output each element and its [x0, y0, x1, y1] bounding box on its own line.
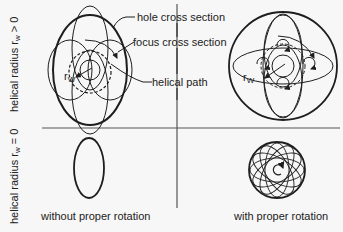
row-label-top-text: helical radius r — [8, 41, 20, 112]
row-label-bottom: helical radius rw = 0 — [9, 129, 22, 224]
row-label-top-suffix: > 0 — [8, 17, 20, 36]
row-label-top-sub: w — [13, 35, 22, 41]
row-label-bottom-sub: w — [13, 147, 22, 153]
bottom-left-ellipse — [74, 138, 104, 198]
bottom-right-rosette — [248, 141, 307, 200]
rotation-arrow-icon — [273, 165, 283, 175]
row-label-bottom-suffix: = 0 — [8, 129, 20, 148]
rw-right-sub: W — [247, 76, 255, 85]
diagram-canvas — [0, 0, 343, 232]
top-right-figure — [229, 12, 337, 120]
row-label-top: helical radius rw > 0 — [9, 17, 22, 112]
row-label-bottom-text: helical radius r — [8, 153, 20, 224]
rw-symbol-left: rW — [64, 71, 75, 84]
callout-hole-cross-section: hole cross section — [137, 12, 225, 23]
rw-symbol-right: rW — [243, 72, 254, 85]
rw-left-sub: W — [68, 75, 76, 84]
column-label-left: without proper rotation — [41, 211, 150, 222]
column-label-right: with proper rotation — [234, 211, 328, 222]
callout-focus-cross-section: focus cross section — [133, 37, 227, 48]
callout-helical-path: helical path — [152, 77, 208, 88]
